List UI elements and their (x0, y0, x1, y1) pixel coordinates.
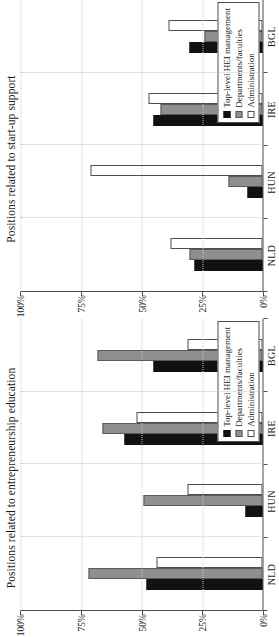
category-axis-tick-mark (263, 291, 267, 292)
category-label-bgl: BGL (263, 0, 279, 73)
bar (156, 557, 262, 568)
legend-startup-support: Top-level HEI managementDepartments/facu… (217, 2, 259, 123)
category-label-hun: HUN (263, 465, 279, 538)
panel-title-startup-support: Positions related to start-up support (0, 0, 20, 318)
bar (90, 165, 262, 176)
legend-swatch-icon (235, 111, 242, 118)
legend-label: Top-level HEI management (221, 327, 231, 427)
category-label-nld: NLD (263, 538, 279, 611)
value-axis-tick-label: 25% (197, 295, 207, 312)
value-axis-tick-mark (80, 292, 81, 296)
value-axis-tick-mark (202, 292, 203, 296)
category-axis-tick-mark (263, 218, 267, 219)
panel-title-entrepreneurship-education: Positions related to entrepreneurship ed… (0, 319, 20, 637)
category-axis-tick-mark (263, 72, 267, 73)
category-separator-gridline (20, 463, 262, 464)
legend-entry: Top-level HEI management (221, 327, 231, 437)
bar (245, 506, 262, 517)
panel-startup-support: Positions related to start-up support 10… (0, 0, 279, 318)
plot-row-entrepreneurship-education: 100%75%50%25%0% Top-level HEI management… (20, 319, 263, 637)
category-separator-gridline (20, 145, 262, 146)
category-label-hun: HUN (263, 146, 279, 219)
category-axis-tick-mark (263, 318, 267, 319)
category-label-nld: NLD (263, 219, 279, 292)
legend-entrepreneurship-education: Top-level HEI managementDepartments/facu… (217, 321, 259, 442)
value-axis-tick-label: 50% (137, 295, 147, 312)
category-label-ire: IRE (263, 73, 279, 146)
legend-entry: Departments/faculties (233, 8, 243, 118)
category-axis-tick-mark (263, 464, 267, 465)
legend-entry: Departments/faculties (233, 327, 243, 437)
value-axis-tick-mark (80, 611, 81, 615)
legend-entry: Administration (245, 327, 255, 437)
gridline (20, 0, 21, 291)
plot-area-entrepreneurship-education: Top-level HEI managementDepartments/facu… (20, 319, 263, 611)
bar (187, 484, 262, 495)
legend-swatch-icon (223, 111, 230, 118)
bar (228, 176, 262, 187)
category-axis-startup-support: NLDHUNIREBGL (263, 0, 279, 318)
gridline (202, 0, 203, 291)
value-axis-tick-mark (202, 611, 203, 615)
legend-swatch-icon (247, 429, 254, 436)
panel-entrepreneurship-education: Positions related to entrepreneurship ed… (0, 318, 279, 637)
bar (170, 238, 262, 249)
category-separator-gridline (20, 72, 262, 73)
value-axis-tick-mark (141, 611, 142, 615)
bar (194, 260, 262, 271)
legend-label: Administration (245, 53, 255, 108)
value-axis-tick-label: 75% (76, 295, 86, 312)
bar (146, 579, 262, 590)
legend-label: Top-level HEI management (221, 8, 231, 108)
legend-label: Departments/faculties (233, 29, 243, 108)
value-axis-tick-label: 50% (137, 614, 147, 631)
figure-two-panel-bar-charts: Positions related to start-up support 10… (0, 0, 279, 637)
legend-label: Departments/faculties (233, 347, 243, 426)
gridline (81, 0, 82, 291)
category-label-bgl: BGL (263, 319, 279, 392)
category-axis-tick-mark (263, 145, 267, 146)
category-separator-gridline (20, 536, 262, 537)
category-separator-gridline (20, 217, 262, 218)
value-axis-tick-mark (20, 292, 21, 296)
legend-swatch-icon (247, 111, 254, 118)
plot-area-startup-support: Top-level HEI managementDepartments/facu… (20, 0, 263, 292)
legend-entry: Administration (245, 8, 255, 118)
bar (247, 187, 262, 198)
legend-swatch-icon (223, 429, 230, 436)
value-axis-tick-mark (20, 611, 21, 615)
value-axis-tick-label: 100% (15, 614, 25, 636)
bar (189, 249, 262, 260)
value-axis-tick-label: 25% (197, 614, 207, 631)
category-axis-entrepreneurship-education: NLDHUNIREBGL (263, 319, 279, 637)
legend-swatch-icon (235, 429, 242, 436)
value-axis-tick-mark (141, 292, 142, 296)
category-label-ire: IRE (263, 392, 279, 465)
bar (88, 568, 262, 579)
gridline (141, 0, 142, 291)
value-axis-entrepreneurship-education: 100%75%50%25%0% (20, 611, 263, 637)
category-axis-tick-mark (263, 537, 267, 538)
value-axis-tick-label: 100% (15, 295, 25, 317)
value-axis-startup-support: 100%75%50%25%0% (20, 292, 263, 318)
value-axis-tick-label: 75% (76, 614, 86, 631)
legend-entry: Top-level HEI management (221, 8, 231, 118)
category-axis-tick-mark (263, 610, 267, 611)
category-separator-gridline (20, 390, 262, 391)
category-axis-tick-mark (263, 391, 267, 392)
plot-row-startup-support: 100%75%50%25%0% Top-level HEI management… (20, 0, 263, 318)
legend-label: Administration (245, 372, 255, 427)
